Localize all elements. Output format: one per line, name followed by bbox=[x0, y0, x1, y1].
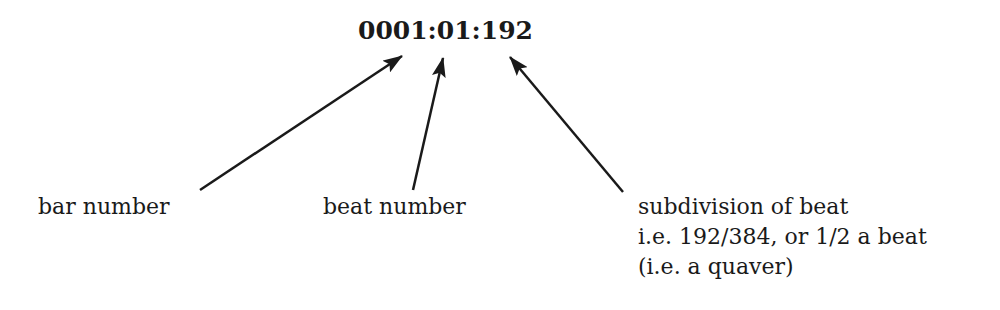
beat-arrow bbox=[413, 58, 443, 190]
arrows-layer bbox=[0, 0, 1000, 310]
beat-number-label: beat number bbox=[323, 192, 466, 222]
subdivision-label-line2: i.e. 192/384, or 1/2 a beat bbox=[638, 222, 927, 252]
bar-arrow bbox=[200, 56, 402, 190]
subdivision-label-line3: (i.e. a quaver) bbox=[638, 252, 794, 282]
subdivision-label-line1: subdivision of beat bbox=[638, 192, 848, 222]
bar-number-label: bar number bbox=[38, 192, 170, 222]
subdivision-arrow bbox=[510, 57, 623, 192]
